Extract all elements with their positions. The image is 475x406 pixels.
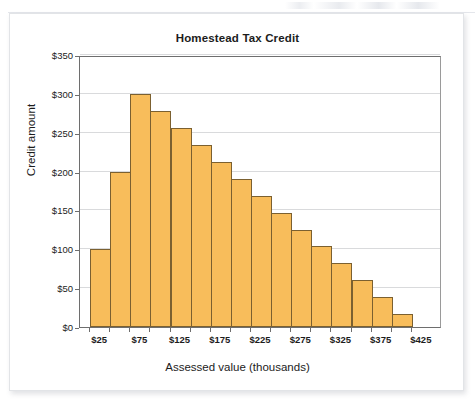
x-tick-label: $25 xyxy=(77,334,121,345)
y-tick-label: $200 xyxy=(13,167,73,178)
x-tick-mark xyxy=(129,328,130,332)
x-tick-mark xyxy=(310,328,311,332)
x-tick-mark xyxy=(351,328,352,332)
chart-card: Homestead Tax Credit Credit amount Asses… xyxy=(9,13,464,391)
bar xyxy=(251,196,272,327)
bar xyxy=(90,249,111,327)
y-tick-mark xyxy=(75,328,79,329)
y-tick-mark xyxy=(75,56,79,57)
bar xyxy=(110,172,131,327)
y-tick-mark xyxy=(75,134,79,135)
bar xyxy=(130,94,151,327)
plot-area xyxy=(79,56,441,328)
y-tick-label: $300 xyxy=(13,89,73,100)
bar xyxy=(291,230,312,327)
y-tick-label: $350 xyxy=(13,50,73,61)
x-axis-title: Assessed value (thousands) xyxy=(10,361,465,373)
y-tick-mark xyxy=(75,289,79,290)
y-tick-mark xyxy=(75,95,79,96)
x-tick-mark xyxy=(190,328,191,332)
bar xyxy=(191,145,212,327)
bar xyxy=(311,246,332,327)
x-tick-mark xyxy=(149,328,150,332)
x-tick-label: $225 xyxy=(238,334,282,345)
gridline-350 xyxy=(80,54,440,55)
x-tick-label: $325 xyxy=(318,334,362,345)
x-tick-label: $75 xyxy=(117,334,161,345)
bar xyxy=(211,162,232,327)
bar xyxy=(171,128,192,327)
x-tick-mark xyxy=(270,328,271,332)
scan-artifact xyxy=(285,2,465,9)
y-tick-label: $0 xyxy=(13,322,73,333)
y-tick-label: $50 xyxy=(13,283,73,294)
y-tick-mark xyxy=(75,173,79,174)
x-tick-label: $425 xyxy=(399,334,443,345)
bar xyxy=(231,179,252,327)
bar xyxy=(271,213,292,327)
x-tick-mark xyxy=(89,328,90,332)
bar-series xyxy=(80,57,440,327)
x-tick-mark xyxy=(170,328,171,332)
x-tick-mark xyxy=(330,328,331,332)
y-tick-label: $150 xyxy=(13,205,73,216)
bar xyxy=(372,297,393,327)
x-tick-mark xyxy=(371,328,372,332)
chart-title: Homestead Tax Credit xyxy=(10,32,465,44)
y-tick-label: $100 xyxy=(13,244,73,255)
bar xyxy=(352,280,373,327)
x-tick-mark xyxy=(250,328,251,332)
figure-page: Homestead Tax Credit Credit amount Asses… xyxy=(0,0,475,406)
x-tick-mark xyxy=(210,328,211,332)
x-tick-mark xyxy=(230,328,231,332)
x-tick-label: $125 xyxy=(158,334,202,345)
y-tick-mark xyxy=(75,250,79,251)
x-tick-label: $275 xyxy=(278,334,322,345)
x-tick-label: $175 xyxy=(198,334,242,345)
x-tick-mark xyxy=(411,328,412,332)
y-tick-label: $250 xyxy=(13,128,73,139)
y-tick-mark xyxy=(75,211,79,212)
x-tick-mark xyxy=(290,328,291,332)
bar xyxy=(150,111,171,327)
x-tick-label: $375 xyxy=(359,334,403,345)
bar xyxy=(331,263,352,327)
x-tick-mark xyxy=(391,328,392,332)
x-tick-mark xyxy=(109,328,110,332)
bar xyxy=(392,314,413,327)
